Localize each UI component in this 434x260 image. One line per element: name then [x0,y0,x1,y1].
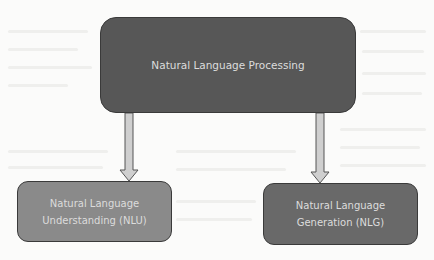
node-natural-language-understanding: Natural Language Understanding (NLU) [17,181,172,242]
arrow-to-nlu [120,113,138,181]
node-label: Natural Language Processing [151,57,304,74]
node-natural-language-generation: Natural Language Generation (NLG) [263,183,418,245]
arrow-to-nlg [311,113,329,183]
node-label: Natural Language Generation (NLG) [296,197,385,231]
node-label: Natural Language Understanding (NLU) [42,195,147,229]
node-natural-language-processing: Natural Language Processing [100,17,356,113]
